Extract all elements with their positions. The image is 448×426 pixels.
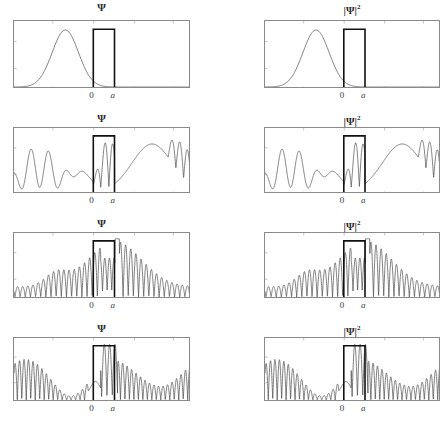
- plot-panel: [13, 232, 190, 298]
- panel-title-psi: Ψ: [13, 323, 190, 334]
- plot-panel: [264, 232, 440, 298]
- plot-panel: [264, 127, 440, 193]
- axis-label-barrier-end: a: [361, 90, 366, 100]
- wavefunction-curve: [265, 140, 440, 189]
- plot-canvas: [265, 338, 440, 401]
- panel-title-psi-squared: |Ψ|2: [264, 218, 440, 232]
- plot-canvas: [14, 233, 190, 298]
- axis-label-origin: 0: [340, 195, 345, 205]
- panel-title-superscript: 2: [357, 324, 361, 332]
- plot-panel: [13, 127, 190, 193]
- axis-label-origin: 0: [89, 403, 94, 413]
- panel-title-superscript: 2: [357, 219, 361, 227]
- axis-label-origin: 0: [340, 90, 345, 100]
- axis-label-origin: 0: [89, 90, 94, 100]
- panel-title-text: Ψ: [97, 217, 106, 229]
- axis-label-origin: 0: [340, 300, 345, 310]
- plot-canvas: [265, 128, 440, 193]
- axis-label-barrier-end: a: [111, 90, 116, 100]
- wavefunction-curve: [14, 30, 190, 87]
- wavefunction-curve: [14, 344, 190, 400]
- wavefunction-curve: [265, 344, 440, 400]
- axis-label-barrier-end: a: [111, 300, 116, 310]
- axis-label-barrier-end: a: [361, 195, 366, 205]
- panel-title-text: |Ψ|: [344, 115, 357, 127]
- panel-title-text: Ψ: [97, 112, 106, 124]
- panel-title-superscript: 2: [357, 114, 361, 122]
- plot-canvas: [14, 21, 190, 88]
- panel-title-text: |Ψ|: [344, 325, 357, 337]
- panel-title-psi-squared: |Ψ|2: [264, 2, 440, 16]
- wavefunction-curve: [14, 140, 190, 189]
- panel-title-text: Ψ: [97, 1, 106, 13]
- potential-barrier: [93, 29, 114, 88]
- wavefunction-curve: [265, 239, 440, 297]
- potential-barrier: [93, 136, 114, 193]
- wavefunction-curve: [265, 30, 440, 87]
- panel-title-psi-squared: |Ψ|2: [264, 323, 440, 337]
- axis-label-origin: 0: [340, 403, 345, 413]
- axis-label-barrier-end: a: [111, 195, 116, 205]
- plot-canvas: [265, 233, 440, 298]
- wavefunction-curve: [14, 239, 190, 297]
- panel-title-psi-squared: |Ψ|2: [264, 113, 440, 127]
- panel-title-text: |Ψ|: [344, 4, 357, 16]
- potential-barrier: [344, 136, 365, 193]
- panel-title-superscript: 2: [357, 3, 361, 11]
- plot-panel: [264, 20, 440, 88]
- axis-label-origin: 0: [89, 195, 94, 205]
- plot-panel: [13, 20, 190, 88]
- plot-panel: [13, 337, 190, 401]
- axis-label-barrier-end: a: [361, 403, 366, 413]
- panel-title-text: |Ψ|: [344, 220, 357, 232]
- panel-title-psi: Ψ: [13, 218, 190, 229]
- panel-title-psi: Ψ: [13, 113, 190, 124]
- axis-label-barrier-end: a: [361, 300, 366, 310]
- wavefunction-figure: Ψ0a|Ψ|20aΨ0a|Ψ|20aΨ0a|Ψ|20aΨ0a|Ψ|20a: [0, 0, 448, 426]
- potential-barrier: [344, 29, 365, 88]
- plot-panel: [264, 337, 440, 401]
- panel-title-psi: Ψ: [13, 2, 190, 13]
- plot-canvas: [14, 338, 190, 401]
- plot-canvas: [14, 128, 190, 193]
- panel-title-text: Ψ: [97, 322, 106, 334]
- axis-label-barrier-end: a: [111, 403, 116, 413]
- axis-label-origin: 0: [89, 300, 94, 310]
- plot-canvas: [265, 21, 440, 88]
